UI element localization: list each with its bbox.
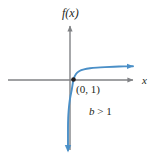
- graph-canvas: [0, 0, 154, 154]
- figure-container: f(x) x (0, 1) b > 1: [0, 0, 154, 154]
- base-condition-relation: >: [95, 105, 107, 117]
- base-condition-label: b > 1: [89, 106, 112, 117]
- y-axis-label: f(x): [62, 7, 79, 19]
- point-marker-0-1: [71, 77, 76, 82]
- x-axis-label: x: [142, 75, 147, 86]
- base-condition-value: 1: [106, 105, 112, 117]
- point-coordinate-label: (0, 1): [76, 84, 100, 95]
